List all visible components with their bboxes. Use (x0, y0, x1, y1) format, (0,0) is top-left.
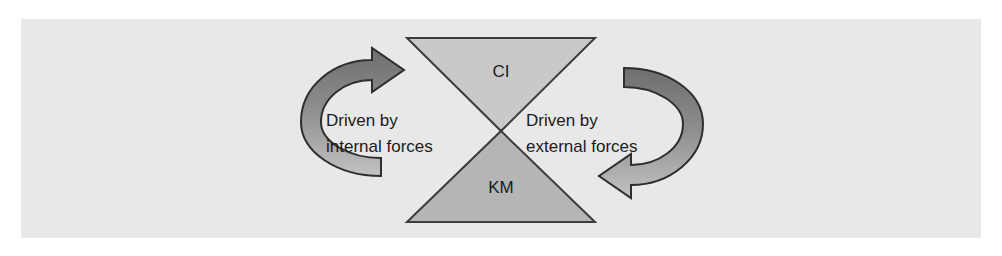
right-caption: Driven by external forces (526, 111, 638, 156)
diagram-canvas: CI KM Driven by internal forces Driven b… (0, 0, 1002, 256)
km-label: KM (488, 178, 514, 197)
right-arrow-shape (599, 68, 703, 198)
left-caption-line2: internal forces (326, 137, 433, 156)
left-caption: Driven by internal forces (326, 111, 433, 156)
figure-root: CI KM Driven by internal forces Driven b… (0, 0, 1002, 256)
right-caption-line1: Driven by (526, 111, 598, 130)
left-caption-line1: Driven by (326, 111, 398, 130)
right-caption-line2: external forces (526, 137, 638, 156)
ci-label: CI (493, 62, 510, 81)
curved-arrow-down-left-icon (599, 68, 703, 198)
